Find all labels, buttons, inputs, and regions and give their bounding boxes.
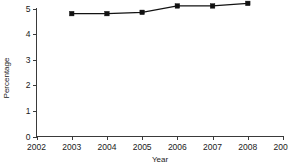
x-tick-label: 2005: [133, 142, 152, 152]
x-tick-label: 2009: [274, 142, 288, 152]
x-tick-label: 2007: [203, 142, 222, 152]
data-point-marker: [140, 10, 145, 15]
data-point-marker: [245, 1, 250, 6]
y-axis-title: Percentage: [2, 57, 11, 98]
y-tick-label: 4: [26, 29, 31, 39]
data-point-marker: [210, 4, 215, 9]
line-chart: 012345 20022003200420052006200720082009 …: [0, 0, 288, 166]
y-tick-label: 3: [26, 55, 31, 65]
y-tick-label: 5: [26, 4, 31, 14]
y-tick-label: 2: [26, 80, 31, 90]
chart-canvas: 012345 20022003200420052006200720082009 …: [0, 0, 288, 166]
x-axis-title: Year: [152, 155, 169, 164]
y-tick-label: 0: [26, 132, 31, 142]
x-tick-label: 2002: [27, 142, 46, 152]
y-tick-label: 1: [26, 106, 31, 116]
data-point-marker: [69, 11, 74, 16]
x-tick-label: 2004: [97, 142, 116, 152]
data-point-marker: [175, 4, 180, 9]
x-tick-label: 2006: [168, 142, 187, 152]
x-tick-label: 2008: [238, 142, 257, 152]
data-point-marker: [105, 11, 110, 16]
x-tick-label: 2003: [62, 142, 81, 152]
